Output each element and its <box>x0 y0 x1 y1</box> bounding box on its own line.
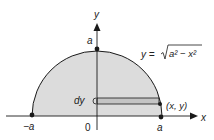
diagram-canvas: y x a −a 0 a dy (x, y) y = a² − x² <box>0 0 214 140</box>
origin-label: 0 <box>85 122 91 133</box>
point-xy <box>158 102 162 106</box>
point-neg-a <box>30 113 35 118</box>
point-pos-a <box>159 115 164 120</box>
dy-label: dy <box>74 95 86 106</box>
top-a-label: a <box>87 35 93 46</box>
point-top-a <box>95 47 100 52</box>
dy-strip <box>97 98 159 104</box>
semicircle-diagram: y x a −a 0 a dy (x, y) y = a² − x² <box>0 0 214 140</box>
x-axis-label: x <box>200 112 207 123</box>
pos-a-label: a <box>157 122 163 133</box>
equation-lhs: y = <box>140 49 155 60</box>
point-xy-label: (x, y) <box>166 100 187 111</box>
x-axis-arrow-icon <box>190 113 198 120</box>
y-axis-arrow-icon <box>94 23 101 31</box>
equation-radicand: a² − x² <box>169 48 197 59</box>
neg-a-label: −a <box>23 121 35 132</box>
y-axis-label: y <box>93 9 100 20</box>
